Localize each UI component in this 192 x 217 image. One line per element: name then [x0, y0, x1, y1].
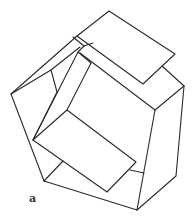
inner-top-edge — [84, 43, 93, 46]
box-inner-vertical — [67, 63, 91, 110]
inner-top-frame — [33, 46, 84, 140]
box-left-top — [78, 52, 91, 63]
inner-top-ridge — [73, 37, 84, 46]
bottom-plate-link — [130, 170, 144, 173]
bottom-plate — [33, 110, 136, 192]
figure-label: a — [29, 192, 36, 205]
bottom-inner-edge — [44, 161, 63, 181]
polyhedron-diagram — [0, 0, 192, 217]
box-right-vertical — [137, 86, 184, 210]
box-front-top-edge — [155, 86, 184, 110]
top-plate — [77, 11, 175, 84]
inner-left-diagonal — [51, 47, 80, 70]
bottom-hull — [44, 181, 137, 210]
box-top-right-edge — [162, 66, 184, 86]
inner-top-ridge-2 — [80, 53, 155, 110]
box-front-vertical — [137, 110, 155, 210]
